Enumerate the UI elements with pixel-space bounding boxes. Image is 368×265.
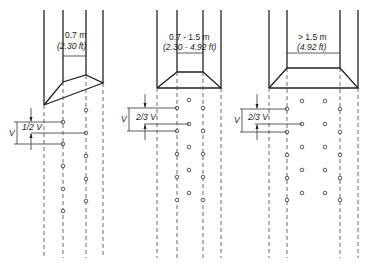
vertical-label: V [121,114,128,124]
width-label: 0.7 m [65,30,86,40]
width-label-imperial: (2.30 ft) [57,41,86,51]
vertical-label: V [234,115,241,125]
spacing-label: 1/2 V [22,122,43,132]
panel-wide: > 1.5 m (4.92 ft) V 2/3 V [234,10,358,258]
transition-shape [44,75,103,105]
width-label-imperial: (4.92 ft) [297,42,326,52]
spacing-label: 2/3 V [247,112,269,122]
transition-shape [157,72,221,88]
width-label: > 1.5 m [298,32,327,42]
width-label-imperial: (2.30 - 4.92 ft) [163,42,217,52]
spacing-label: 2/3 V [135,112,157,122]
transition-shape [269,68,358,88]
vertical-label: V [9,128,16,138]
width-label: 0.7 - 1.5 m [169,32,210,42]
panel-medium: 0.7 - 1.5 m (2.30 - 4.92 ft) V 2/3 V [121,10,221,258]
panel-narrow: 0.7 m (2.30 ft) V 1/2 V [9,10,103,258]
